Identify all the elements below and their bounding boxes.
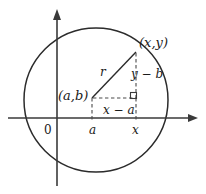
figure-canvas [0, 0, 206, 194]
x-axis-arrow-icon [188, 114, 198, 122]
label-tick-x: x [132, 124, 139, 136]
label-tick-origin: 0 [44, 124, 52, 136]
label-vertical-leg: y − b [131, 68, 163, 80]
label-radius: r [100, 66, 106, 78]
radius-segment [92, 52, 136, 98]
label-horizontal-leg: x − a [103, 104, 135, 116]
circle-equation-figure: (x,y) (a,b) r y − b x − a 0 a x [0, 0, 206, 194]
y-axis-arrow-icon [53, 9, 61, 20]
label-tick-a: a [89, 124, 96, 136]
label-center-point: (a,b) [58, 89, 88, 102]
label-point-on-circle: (x,y) [139, 36, 168, 49]
